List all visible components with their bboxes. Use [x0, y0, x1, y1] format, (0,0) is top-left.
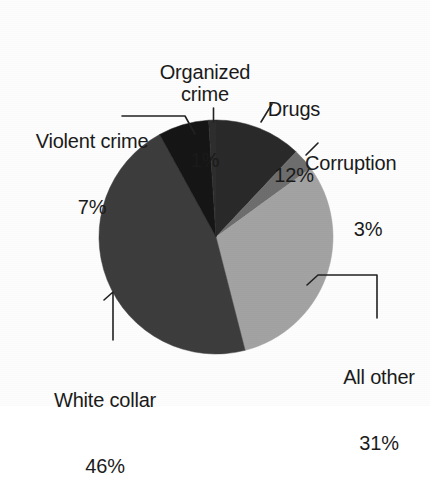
slice-label-violent-crime-percent: 7%: [12, 196, 172, 218]
slice-label-corruption: Corruption 3%: [305, 108, 425, 284]
slice-label-violent-crime-name: Violent crime: [12, 130, 172, 152]
slice-label-corruption-name: Corruption: [305, 152, 425, 174]
slice-label-white-collar: White collar 46%: [30, 345, 180, 477]
slice-label-corruption-percent: 3%: [305, 218, 425, 240]
slice-label-all-other-name: All other: [330, 366, 428, 388]
slice-label-all-other-percent: 31%: [330, 432, 428, 454]
slice-label-violent-crime: Violent crime 7%: [12, 86, 172, 262]
slice-label-all-other: All other 31%: [330, 322, 428, 477]
slice-label-white-collar-name: White collar: [30, 389, 180, 411]
slice-label-white-collar-percent: 46%: [30, 455, 180, 477]
leader-line-white-collar: [104, 292, 113, 340]
